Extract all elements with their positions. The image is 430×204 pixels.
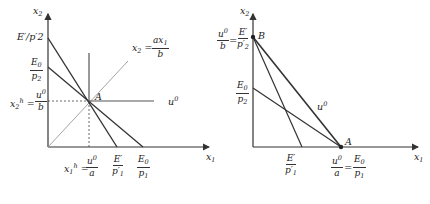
label-x2h: x2h = xyxy=(10,98,35,111)
indifference-label: u0 xyxy=(168,96,178,107)
label-u0-over-b: u0b xyxy=(35,89,47,112)
right-diagram xyxy=(251,14,418,149)
label-E-prime-over-p1-prime: E′p′1 xyxy=(112,155,124,178)
label-E-prime-over-p2-prime: E′/p′2 xyxy=(17,32,44,42)
label-ray-equation: x2 = xyxy=(132,43,152,55)
point-B-label: B xyxy=(258,31,265,41)
label-E0-over-p2-right: E0p2 xyxy=(236,81,249,105)
right-y-axis-label: x2 xyxy=(240,6,250,18)
point-A-label: A xyxy=(95,92,102,102)
left-x-axis-label: x1 xyxy=(206,152,216,164)
right-x-axis-label: x1 xyxy=(414,152,424,164)
point-A-label-right: A xyxy=(345,137,352,147)
label-E0-over-p2: E0p2 xyxy=(30,58,43,82)
budget-line-original xyxy=(253,88,341,147)
indifference-label-right: u0 xyxy=(317,101,327,112)
label-u0-over-a: u0a xyxy=(86,155,98,178)
label-x1h: x1h = xyxy=(64,163,89,176)
budget-line-new xyxy=(48,38,117,147)
left-y-axis-label: x2 xyxy=(33,6,43,18)
label-E-prime-over-p1-prime-right: E′p′1 xyxy=(285,154,297,177)
indifference-line-u0 xyxy=(253,37,341,147)
left-diagram xyxy=(48,14,209,147)
label-B-u0-over-b: u0b xyxy=(217,28,229,51)
point-A-dot xyxy=(339,145,343,149)
budget-line-new xyxy=(253,37,302,147)
label-A-u0-over-a: u0a xyxy=(331,155,343,178)
label-A-E0-over-p1: E0p1 xyxy=(353,155,366,179)
label-B-E-prime-over-p2-prime: E′p′2 xyxy=(237,28,249,51)
budget-line-original xyxy=(48,67,143,147)
label-ray-fraction: ax1b xyxy=(152,36,169,59)
ray-line xyxy=(48,61,128,147)
equals-sign-A: = xyxy=(344,162,352,173)
label-E0-over-p1: E0p1 xyxy=(137,155,150,179)
point-B-dot xyxy=(251,35,255,39)
